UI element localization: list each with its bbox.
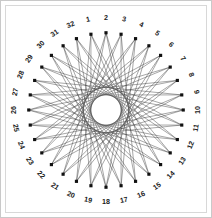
- vertex-dot: [50, 163, 53, 166]
- vertex-label-6: 6: [167, 41, 175, 49]
- vertex-label-9: 9: [192, 89, 201, 94]
- vertex-dot: [40, 151, 43, 154]
- vertex-dot: [180, 123, 183, 126]
- vertex-label-27: 27: [11, 87, 20, 96]
- vertex-label-3: 3: [121, 15, 126, 24]
- vertex-dot: [29, 123, 32, 126]
- vertex-dot: [176, 79, 179, 82]
- chord-line: [51, 95, 181, 165]
- chord-line: [30, 95, 160, 165]
- vertex-dot: [40, 66, 43, 69]
- vertex-dot: [119, 33, 122, 36]
- vertex-dot: [134, 180, 137, 183]
- vertex-label-22: 22: [35, 169, 46, 180]
- vertex-label-12: 12: [186, 140, 196, 150]
- vertex-label-10: 10: [194, 106, 202, 114]
- vertex-dot: [159, 163, 162, 166]
- vertex-label-31: 31: [49, 28, 60, 39]
- vertex-label-20: 20: [66, 190, 76, 200]
- vertex-dot: [33, 138, 36, 141]
- vertex-label-16: 16: [136, 190, 146, 200]
- vertex-dot: [62, 173, 65, 176]
- vertex-label-8: 8: [187, 71, 196, 78]
- vertex-dot: [176, 138, 179, 141]
- vertex-dot: [33, 79, 36, 82]
- vertex-dot: [119, 184, 122, 187]
- vertex-label-14: 14: [165, 169, 176, 180]
- vertex-label-4: 4: [138, 20, 145, 29]
- vertex-dot: [75, 180, 78, 183]
- vertex-label-13: 13: [177, 156, 188, 167]
- vertex-dot: [169, 151, 172, 154]
- vertex-dot: [50, 54, 53, 57]
- vertex-label-25: 25: [11, 123, 20, 132]
- vertex-dot: [104, 31, 107, 34]
- vertex-label-28: 28: [16, 69, 26, 79]
- vertex-label-29: 29: [24, 53, 35, 64]
- vertex-label-7: 7: [178, 55, 187, 63]
- vertex-dot: [62, 44, 65, 47]
- chord-line: [91, 34, 161, 164]
- chord-line: [91, 55, 161, 185]
- vertex-label-1: 1: [85, 15, 90, 24]
- figure-inner-border: 1234567891011121314151617181920212223242…: [5, 5, 207, 213]
- vertex-label-17: 17: [119, 195, 128, 204]
- vertex-dot: [89, 33, 92, 36]
- vertex-dot: [27, 108, 30, 111]
- vertex-label-19: 19: [83, 195, 92, 204]
- vertex-label-21: 21: [49, 181, 60, 192]
- vertex-label-24: 24: [16, 140, 26, 150]
- vertex-dot: [169, 66, 172, 69]
- vertex-dot: [182, 108, 185, 111]
- string-art-diagram: 1234567891011121314151617181920212223242…: [6, 6, 206, 212]
- vertex-label-group: 1234567891011121314151617181920212223242…: [10, 14, 202, 206]
- vertex-dot: [159, 54, 162, 57]
- vertex-dot: [180, 93, 183, 96]
- vertex-label-18: 18: [102, 198, 110, 206]
- vertex-label-15: 15: [152, 181, 163, 192]
- vertex-dot: [29, 93, 32, 96]
- vertex-dot: [104, 186, 107, 189]
- vertex-dot: [89, 184, 92, 187]
- chord-line: [51, 55, 121, 185]
- vertex-dot: [147, 173, 150, 176]
- figure-frame: 1234567891011121314151617181920212223242…: [0, 0, 212, 218]
- vertex-group: [27, 31, 185, 189]
- vertex-label-23: 23: [24, 156, 35, 167]
- vertex-label-26: 26: [10, 106, 18, 114]
- chord-line: [30, 55, 160, 125]
- vertex-label-11: 11: [192, 123, 201, 132]
- vertex-dot: [75, 37, 78, 40]
- vertex-label-2: 2: [104, 14, 108, 22]
- chord-line: [51, 55, 181, 125]
- chord-line: [51, 34, 121, 164]
- vertex-label-30: 30: [35, 39, 46, 50]
- vertex-label-32: 32: [66, 20, 76, 30]
- vertex-dot: [147, 44, 150, 47]
- vertex-label-5: 5: [153, 29, 161, 38]
- vertex-dot: [134, 37, 137, 40]
